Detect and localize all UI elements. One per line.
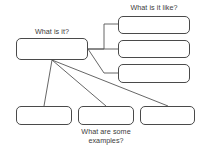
attribute-box-1[interactable] [118,16,190,34]
concept-map-canvas: What is it? What is it like? What are so… [0,0,205,160]
connector-main-to-example-1 [44,60,52,106]
examples-caption: What are some examples? [60,128,152,145]
connector-main-to-example-2 [52,60,106,106]
attribute-box-3[interactable] [118,64,190,83]
connector-main-to-attribute-1 [88,24,118,49]
main-caption: What is it? [16,28,88,37]
attribute-box-2[interactable] [118,40,190,58]
attributes-caption: What is it like? [118,4,190,13]
main-concept-box[interactable] [16,38,88,60]
example-box-3[interactable] [140,106,195,125]
example-box-2[interactable] [78,106,134,125]
connector-main-to-attribute-3 [88,49,118,73]
example-box-1[interactable] [16,106,72,125]
